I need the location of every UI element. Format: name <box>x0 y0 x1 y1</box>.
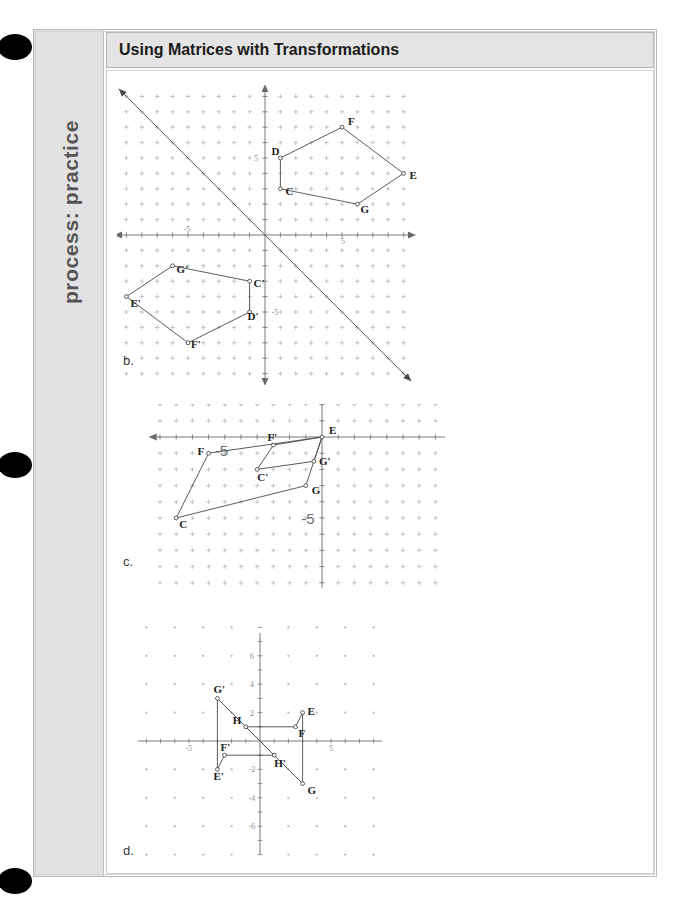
svg-text:6: 6 <box>250 652 254 661</box>
section-header-bar: Using Matrices with Transformations <box>106 32 654 68</box>
svg-text:G': G' <box>319 455 331 467</box>
figure-c-letter: c. <box>123 554 133 569</box>
svg-text:F': F' <box>191 338 201 350</box>
page-title: Using Matrices with Transformations <box>119 41 399 59</box>
svg-text:C: C <box>285 185 293 197</box>
svg-text:F': F' <box>267 431 277 443</box>
svg-text:-4: -4 <box>249 794 256 803</box>
svg-text:E': E' <box>213 770 223 782</box>
svg-text:-5: -5 <box>272 308 279 317</box>
figure-c: c. -5-5CFEGC'F'G' <box>117 404 447 589</box>
svg-text:5: 5 <box>254 154 258 163</box>
binding-hole <box>0 34 32 60</box>
svg-text:-5: -5 <box>184 225 191 234</box>
svg-text:D': D' <box>248 310 259 322</box>
svg-text:E': E' <box>130 297 140 309</box>
svg-text:2: 2 <box>250 709 254 718</box>
svg-text:E: E <box>308 705 315 717</box>
svg-text:5: 5 <box>329 744 333 753</box>
svg-text:H: H <box>233 714 242 726</box>
svg-text:D: D <box>271 145 279 157</box>
svg-text:G: G <box>360 203 369 215</box>
svg-text:E: E <box>410 169 417 181</box>
svg-text:C': C' <box>257 471 268 483</box>
binding-hole <box>0 452 32 478</box>
svg-text:F: F <box>198 445 205 457</box>
graph-c-canvas: -5-5CFEGC'F'G' <box>117 404 447 589</box>
svg-text:G': G' <box>177 263 189 275</box>
figure-d-letter: d. <box>123 843 134 858</box>
svg-text:G': G' <box>213 683 225 695</box>
figure-b-letter: b. <box>123 353 134 368</box>
svg-text:F: F <box>348 115 355 127</box>
svg-text:H': H' <box>274 757 286 769</box>
figure-d: d. -55642-2-4-6EFHGE'F'H'G' <box>117 621 447 866</box>
svg-text:G: G <box>312 484 321 496</box>
svg-text:5: 5 <box>341 237 345 246</box>
graph-d-canvas: -55642-2-4-6EFHGE'F'H'G' <box>117 621 447 866</box>
svg-text:C: C <box>179 518 187 530</box>
graph-b-canvas: -555-5CDFEGC'D'F'E'G' <box>117 85 417 385</box>
svg-text:-5: -5 <box>301 510 314 527</box>
binding-hole <box>0 868 32 894</box>
svg-text:C': C' <box>254 277 265 289</box>
svg-text:F': F' <box>221 741 231 753</box>
sidebar-tab: process: practice <box>34 30 104 876</box>
svg-text:4: 4 <box>250 680 254 689</box>
sidebar-tab-label: process: practice <box>59 47 83 377</box>
svg-text:E: E <box>329 424 336 436</box>
figure-b: b. -555-5CDFEGC'D'F'E'G' <box>117 85 417 385</box>
svg-text:-5: -5 <box>186 744 193 753</box>
svg-text:G: G <box>308 784 317 796</box>
content-area: b. -555-5CDFEGC'D'F'E'G' c. -5-5CFEGC'F'… <box>106 70 654 874</box>
svg-text:-2: -2 <box>249 765 256 774</box>
svg-text:-6: -6 <box>249 822 256 831</box>
svg-text:F: F <box>299 727 306 739</box>
